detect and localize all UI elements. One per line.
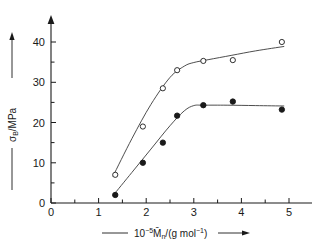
y-tick-label: 40 (33, 36, 45, 48)
y-tick-label: 10 (33, 157, 45, 169)
x-axis-title-arrowhead (242, 230, 250, 235)
x-tick-label: 3 (191, 206, 197, 218)
x-tick-label: 2 (143, 206, 149, 218)
data-point-filled (160, 140, 165, 145)
axes-group (48, 15, 312, 203)
data-point-filled (140, 160, 145, 165)
y-tick-label: 30 (33, 76, 45, 88)
x-axis-title-group: 10−5M̄n/(g mol−1) (102, 227, 250, 240)
data-point-filled (279, 107, 284, 112)
x-tick-label: 1 (96, 206, 102, 218)
filled-circles-fit-curve (113, 105, 284, 196)
y-tick-label: 20 (33, 117, 45, 129)
data-point-open (140, 124, 145, 129)
data-point-filled (201, 102, 206, 107)
y-axis-tick-labels: 0 10 20 30 40 (33, 36, 45, 209)
data-point-filled (174, 113, 179, 118)
y-axis-title-arrowhead (9, 32, 14, 40)
x-axis-title-symbol: M̄ (153, 227, 161, 239)
data-point-open (279, 39, 284, 44)
data-point-filled (113, 192, 118, 197)
y-axis-ticks (51, 42, 56, 203)
chart-figure: 0 10 20 30 40 0 1 2 3 4 5 (0, 0, 321, 247)
y-axis-arrowhead (48, 15, 55, 24)
data-point-open (175, 68, 180, 73)
y-axis-title: σB/MPa (7, 107, 19, 142)
x-axis-ticks (51, 198, 289, 203)
open-circles-series (113, 39, 285, 177)
x-tick-label: 4 (238, 206, 244, 218)
data-point-open (160, 86, 165, 91)
data-point-filled (230, 99, 235, 104)
data-point-open (230, 58, 235, 63)
x-axis-title-prefix: 10 (134, 228, 146, 239)
x-axis-title: 10−5M̄n/(g mol−1) (134, 227, 207, 240)
y-axis-title-group: σB/MPa (7, 32, 19, 190)
y-axis-title-units: /MPa (7, 107, 18, 131)
x-axis-title-unit-exponent: −1 (196, 227, 204, 234)
x-axis-title-unit-close: ) (204, 228, 207, 239)
plot-canvas: 0 10 20 30 40 0 1 2 3 4 5 (0, 0, 321, 247)
x-axis-title-unit-open: /(g mol (165, 228, 196, 239)
data-point-open (113, 172, 118, 177)
open-circles-fit-curve (113, 46, 284, 176)
x-tick-label: 5 (286, 206, 292, 218)
data-point-open (201, 58, 206, 63)
y-tick-label: 0 (39, 197, 45, 209)
x-axis-title-exponent: −5 (145, 227, 153, 234)
fit-curves-group (113, 46, 284, 195)
x-tick-label: 0 (48, 206, 54, 218)
filled-circles-series (113, 99, 285, 198)
x-axis-tick-labels: 0 1 2 3 4 5 (48, 206, 292, 218)
